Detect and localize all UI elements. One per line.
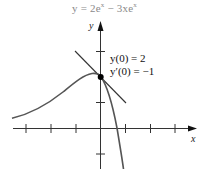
- initial-value-annotation: y(0) = 2: [110, 52, 146, 64]
- initial-slope-annotation: y′(0) = −1: [110, 65, 154, 77]
- x-axis-label: x: [191, 133, 195, 144]
- y-axis-label: y: [89, 20, 93, 31]
- y-axis-arrow-icon: [98, 21, 104, 31]
- solution-curve: [12, 73, 124, 169]
- graph: [0, 0, 209, 169]
- x-axis-arrow-icon: [188, 126, 197, 132]
- initial-point: [98, 74, 104, 80]
